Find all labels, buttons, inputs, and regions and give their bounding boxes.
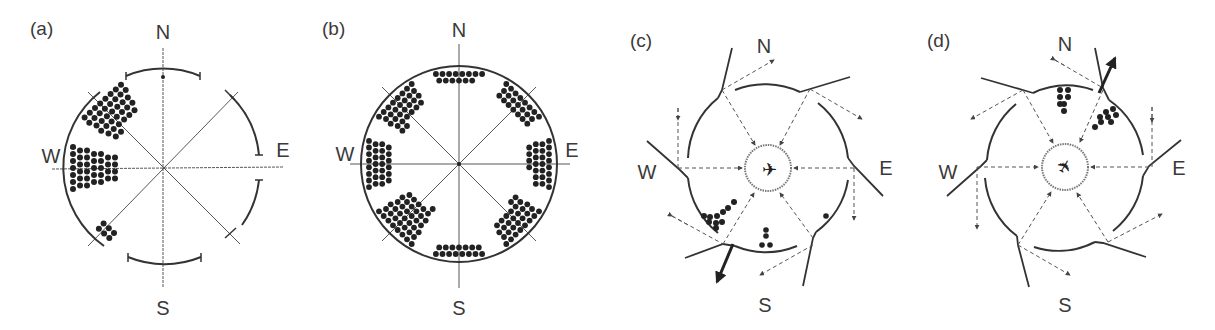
panel-a: (a) N E S W: [0, 0, 300, 330]
bird-icon: ✈: [762, 160, 777, 180]
dot-cluster-sw: [96, 221, 117, 242]
dot-cluster-w: [70, 144, 118, 192]
dot-cluster-nw: [82, 82, 138, 140]
panel-d: (d) N E S W: [905, 0, 1215, 330]
panel-c: (c) N E S W: [600, 0, 910, 330]
panel-b: (b) N E S W: [300, 0, 600, 330]
mirror-arena-diagram-c: ✈: [600, 0, 910, 330]
mirror-arena-diagram-d: ✈: [905, 0, 1215, 330]
compass-diagram-a: [0, 0, 300, 330]
compass-diagram-b: [300, 0, 600, 330]
